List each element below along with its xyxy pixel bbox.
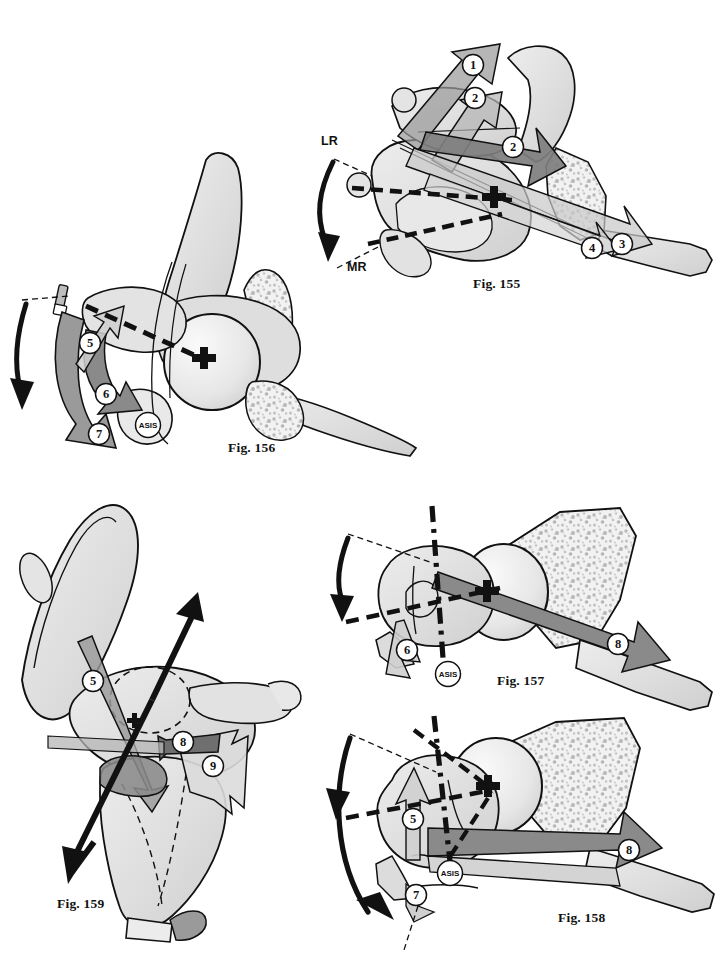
marker-4-155: 4 xyxy=(582,238,603,259)
iliac-tubercle-155 xyxy=(392,88,416,112)
marker-1-label: 1 xyxy=(470,58,476,72)
asis-marker-157: ASIS xyxy=(436,662,461,687)
marker-5-156: 5 xyxy=(80,333,101,354)
marker-5-158: 5 xyxy=(403,809,424,830)
marker-8-157: 8 xyxy=(608,634,629,655)
marker-6-156: 6 xyxy=(96,384,117,405)
marker-2a-155: 2 xyxy=(465,88,486,109)
pubic-tubercle-155 xyxy=(347,173,371,197)
marker-5-label: 5 xyxy=(87,336,93,350)
marker-8-label-157: 8 xyxy=(615,637,621,651)
axis-label-mr: MR xyxy=(347,260,366,274)
marker-5-label-159: 5 xyxy=(90,674,96,688)
caption-fig-159: Fig. 159 xyxy=(57,896,104,912)
marker-8-158: 8 xyxy=(619,840,640,861)
caption-fig-155: Fig. 155 xyxy=(473,276,520,292)
marker-7-158: 7 xyxy=(406,885,427,906)
marker-6-label-157: 6 xyxy=(404,643,410,657)
marker-2a-label: 2 xyxy=(472,91,478,105)
marker-7-label-158: 7 xyxy=(413,888,419,902)
marker-7-156: 7 xyxy=(89,424,110,445)
marker-8-label-158: 8 xyxy=(626,843,632,857)
marker-8-159: 8 xyxy=(173,732,194,753)
asis-marker-158: ASIS xyxy=(438,861,463,886)
axis-label-lr: LR xyxy=(321,134,338,148)
marker-3-155: 3 xyxy=(612,234,633,255)
asis-label-156: ASIS xyxy=(139,421,158,430)
marker-1-155: 1 xyxy=(463,55,484,76)
marker-8-label-159: 8 xyxy=(180,735,186,749)
marker-5-159: 5 xyxy=(83,671,104,692)
caption-fig-157: Fig. 157 xyxy=(497,673,544,689)
asis-label-158: ASIS xyxy=(441,869,460,878)
figure-plate-canvas: 1 2 2 3 4 xyxy=(0,0,727,964)
marker-6-157: 6 xyxy=(397,640,418,661)
marker-7-label: 7 xyxy=(96,427,102,441)
marker-5-label-158: 5 xyxy=(410,812,416,826)
marker-6-label: 6 xyxy=(103,387,109,401)
marker-3-label: 3 xyxy=(619,237,625,251)
marker-4-label: 4 xyxy=(589,241,596,255)
asis-marker-156: ASIS xyxy=(136,413,161,438)
marker-2b-155: 2 xyxy=(503,137,524,158)
figure-plate: 1 2 2 3 4 xyxy=(0,0,727,964)
marker-2b-label: 2 xyxy=(510,140,516,154)
marker-9-159: 9 xyxy=(203,756,224,777)
marker-9-label-159: 9 xyxy=(210,759,216,773)
asis-label-157: ASIS xyxy=(439,670,458,679)
caption-fig-156: Fig. 156 xyxy=(228,440,275,456)
caption-fig-158: Fig. 158 xyxy=(558,910,605,926)
